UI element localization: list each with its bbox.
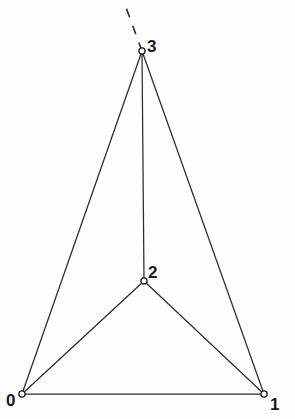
- graph-figure: 0 1 2 3: [0, 0, 295, 419]
- ray-group: [124, 2, 142, 51]
- edge-1-3: [142, 51, 264, 394]
- node-marker-3[interactable]: [139, 48, 145, 54]
- graph-canvas: [0, 0, 295, 419]
- dashed-ray-from-node-3: [124, 2, 142, 51]
- edge-2-3: [142, 51, 144, 281]
- node-label-0: 0: [6, 392, 15, 409]
- edge-0-3: [22, 51, 142, 394]
- edge-0-2: [22, 281, 144, 394]
- node-label-3: 3: [147, 38, 156, 55]
- edge-1-2: [144, 281, 264, 394]
- edge-group: [22, 51, 264, 394]
- node-marker-2[interactable]: [141, 278, 147, 284]
- node-marker-1[interactable]: [261, 391, 267, 397]
- node-label-2: 2: [148, 264, 157, 281]
- node-marker-0[interactable]: [19, 391, 25, 397]
- node-label-1: 1: [270, 396, 279, 413]
